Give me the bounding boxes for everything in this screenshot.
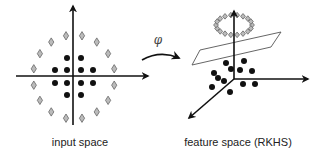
data-point-diamond (223, 14, 228, 20)
data-point-diamond (112, 65, 117, 73)
data-point (228, 66, 234, 72)
data-point (52, 80, 58, 86)
data-point (90, 67, 96, 73)
data-point (78, 80, 84, 86)
data-point (237, 67, 243, 73)
data-point (64, 55, 70, 61)
data-point-diamond (223, 31, 228, 37)
data-point-diamond (228, 32, 233, 38)
data-point-diamond (235, 32, 240, 38)
data-point (215, 75, 221, 81)
data-point (240, 81, 246, 87)
data-point-diamond (94, 38, 99, 46)
data-point-diamond (241, 31, 246, 37)
outer-class-diamonds (31, 32, 117, 123)
data-point (64, 92, 70, 98)
data-point-diamond (37, 49, 42, 57)
mapping-arrow (142, 54, 179, 60)
data-point-diamond (112, 81, 117, 89)
data-point-diamond (235, 12, 240, 18)
data-point-diamond (31, 65, 36, 73)
data-point (78, 55, 84, 61)
data-point (78, 67, 84, 73)
data-point-diamond (79, 114, 84, 122)
data-point (221, 78, 227, 84)
data-point-diamond (31, 81, 36, 89)
data-point (52, 67, 58, 73)
phi-label: φ (154, 33, 162, 47)
data-point-diamond (49, 38, 54, 46)
data-point (64, 80, 70, 86)
feature-space-label: feature space (RKHS) (184, 136, 292, 148)
data-point-diamond (105, 96, 110, 104)
data-point-diamond (241, 14, 246, 20)
data-point (227, 89, 233, 95)
feature-space-plot (189, 11, 308, 118)
input-space-label: input space (52, 136, 108, 148)
data-point-diamond (63, 32, 68, 40)
data-point (211, 70, 217, 76)
data-point-diamond (94, 108, 99, 116)
data-point (223, 60, 229, 66)
data-point-diamond (63, 114, 68, 122)
data-point (241, 58, 247, 64)
data-point (249, 68, 255, 74)
data-point (209, 84, 215, 90)
data-point (64, 67, 70, 73)
data-point-diamond (228, 12, 233, 18)
data-point-diamond (79, 32, 84, 40)
kernel-diagram (0, 0, 316, 158)
data-point (78, 92, 84, 98)
data-point (90, 80, 96, 86)
data-point (252, 81, 258, 87)
data-point-diamond (105, 49, 110, 57)
data-point-diamond (49, 108, 54, 116)
data-point-diamond (37, 96, 42, 104)
input-space-plot (16, 6, 148, 125)
